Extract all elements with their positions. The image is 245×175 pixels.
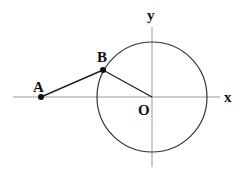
segment-ab <box>41 70 103 97</box>
y-axis-label: y <box>147 7 155 23</box>
point-o-label: O <box>138 102 150 118</box>
x-axis-label: x <box>224 89 232 105</box>
point-a-label: A <box>33 79 44 95</box>
segment-bo <box>103 70 152 97</box>
geometry-diagram: A B O x y <box>0 0 245 175</box>
point-b-label: B <box>97 49 107 65</box>
point-b-dot <box>100 67 106 73</box>
